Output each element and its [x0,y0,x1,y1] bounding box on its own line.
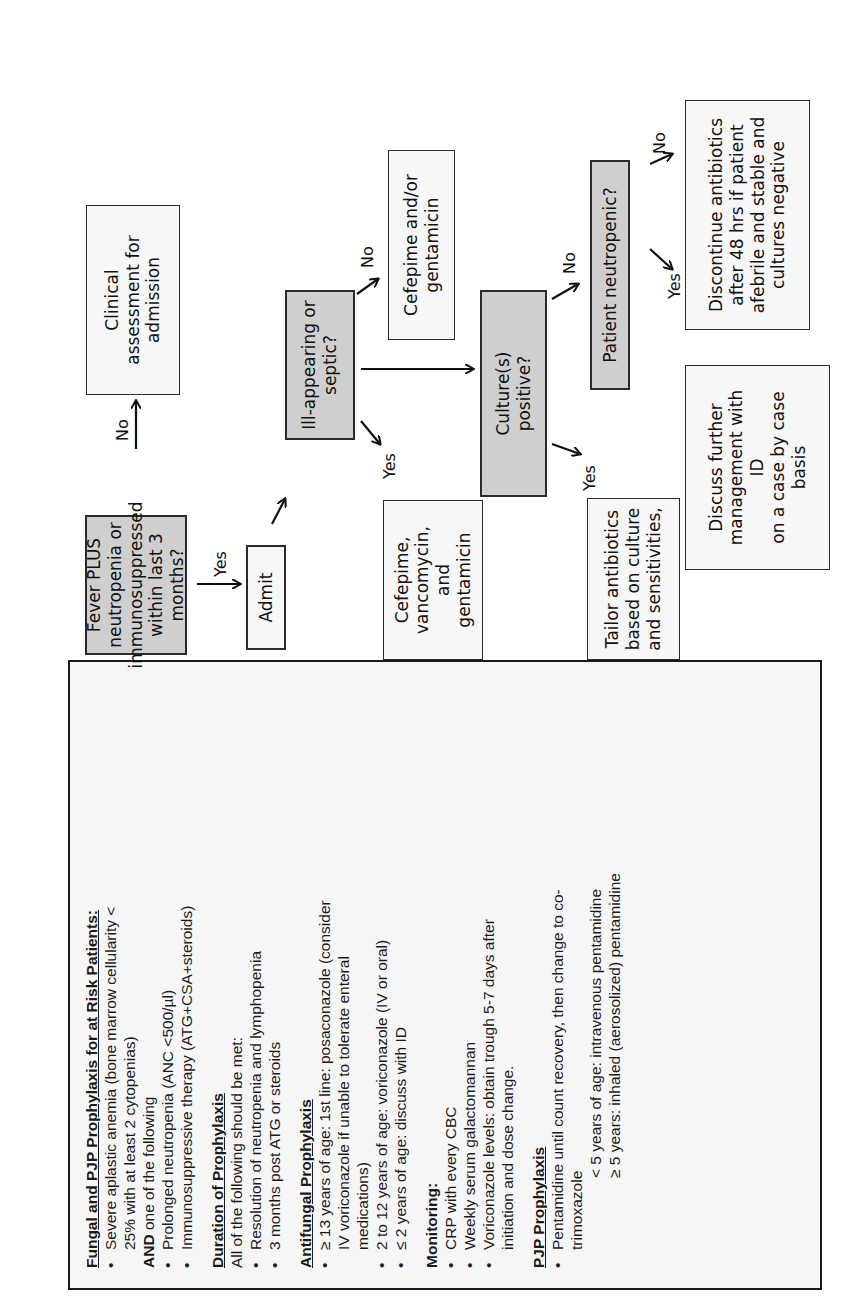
label-neutro-yes: Yes [665,273,684,299]
arrow-culture-no [552,284,578,299]
arrow-neutro-yes [650,249,672,269]
arrow-admit-ill [272,499,285,524]
label-fever-yes: Yes [211,551,230,577]
arrow-ill-no [357,279,378,294]
label-ill-no: No [358,246,377,268]
flow-arrows [0,0,850,1299]
label-neutro-no: No [650,132,669,154]
label-culture-no: No [560,252,579,274]
arrow-ill-yes [361,421,380,444]
arrow-neutro-no [650,154,672,164]
arrow-culture-yes [552,444,580,454]
label-fever-no: No [113,419,132,441]
label-ill-yes: Yes [380,453,399,479]
label-culture-yes: Yes [580,465,599,491]
rotated-page: Fungal and PJP Prophylaxis for at Risk P… [0,0,850,1299]
